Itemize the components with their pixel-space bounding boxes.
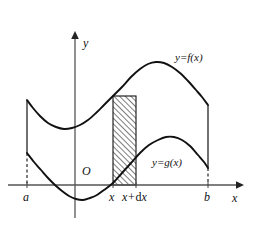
- x-axis-label: x: [232, 192, 237, 204]
- origin-label: O: [82, 165, 91, 177]
- y-axis-label: y: [83, 37, 88, 49]
- strip-hatch-fill: [113, 96, 136, 185]
- tick-label-x-plus-dx-prefix: x+: [122, 190, 135, 204]
- tick-label-x: x: [109, 191, 114, 203]
- tick-label-x-plus-dx-suffix: x: [141, 190, 146, 204]
- x-axis-arrowhead: [236, 181, 244, 189]
- y-axis-arrowhead: [71, 31, 79, 39]
- area-between-curves-figure: y=f(x) y=g(x) y x O a x x+dx b: [0, 0, 254, 233]
- curve-label-f: y=f(x): [175, 52, 203, 63]
- curve-label-g: y=g(x): [152, 157, 182, 168]
- tick-label-a: a: [23, 191, 29, 203]
- tick-label-b: b: [204, 191, 210, 203]
- tick-label-x-plus-dx: x+dx: [122, 191, 147, 203]
- representative-strip: [113, 96, 136, 185]
